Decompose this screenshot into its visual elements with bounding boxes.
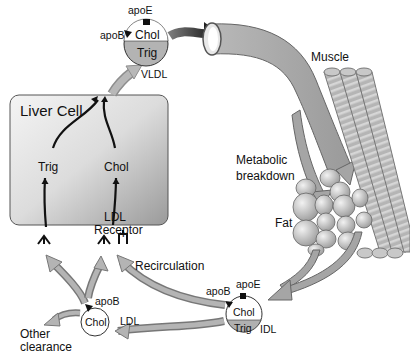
metabolic-label-1: Metabolic (236, 154, 287, 166)
liver-cell-title: Liver Cell (20, 103, 83, 118)
other-clearance-label-1: Other (20, 328, 50, 340)
muscle-label: Muscle (311, 51, 349, 63)
idl-chol-label: Chol (233, 307, 255, 318)
vldl-trig-label: Trig (137, 47, 157, 59)
vldl-apoe-label: apoE (128, 5, 153, 16)
idl-apoe-label: apoE (236, 279, 261, 290)
apoe-marker (143, 19, 150, 25)
vldl-apob-label: apoB (100, 30, 125, 41)
apoe-marker (240, 293, 246, 299)
vldl-chol-label: Chol (135, 29, 160, 41)
other-clearance-label-2: clearance (20, 341, 72, 353)
idl-apob-label: apoB (206, 286, 231, 297)
liver-chol-label: Chol (104, 161, 129, 173)
liver-trig-label: Trig (38, 161, 58, 173)
idl-trig-label: Trig (234, 323, 252, 334)
fat-label: Fat (275, 217, 292, 229)
ldl-receptor-label-2: Receptor (94, 224, 143, 236)
ldl-chol-label: Chol (85, 317, 107, 328)
ldl-apob-label: apoB (95, 296, 120, 307)
arrow-liver-to-vldl (112, 65, 142, 94)
recirculation-label: Recirculation (135, 260, 204, 272)
vldl-label: VLDL (141, 69, 167, 80)
ldl-receptor-label-1: LDL (104, 211, 126, 223)
idl-label: IDL (260, 324, 276, 335)
metabolic-label-2: breakdown (236, 170, 295, 182)
arrow-other-clearance (44, 313, 80, 326)
lipoprotein-diagram: Liver Cell Trig Chol LDL Receptor apoE a… (0, 0, 410, 356)
ldl-label: LDL (120, 316, 139, 327)
